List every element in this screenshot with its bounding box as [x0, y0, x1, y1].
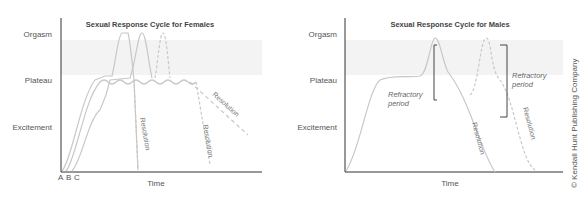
female-chart: Sexual Response Cycle for Females Orgasm…	[12, 18, 262, 188]
curve-label-b: B	[66, 173, 71, 182]
y-label-plateau: Plateau	[25, 76, 52, 85]
chart-title: Sexual Response Cycle for Females	[86, 20, 214, 29]
orgasm-band	[345, 40, 563, 75]
curve-label-a: A	[58, 173, 64, 182]
annotation-period-1: period	[387, 99, 410, 108]
y-label-orgasm: Orgasm	[309, 30, 338, 39]
annotation-resolution-2: Resolution	[522, 106, 537, 140]
x-label-time: Time	[147, 179, 165, 188]
orgasm-band	[61, 40, 262, 75]
annotation-resolution-2: Resolution	[202, 124, 215, 158]
annotation-refractory-2: Refractory	[512, 71, 548, 80]
annotation-resolution-1: Resolution	[139, 117, 152, 151]
annotation-resolution-1: Resolution	[471, 121, 486, 155]
curve-label-c: C	[74, 173, 80, 182]
x-label-time: Time	[441, 179, 459, 188]
annotation-period-2: period	[511, 80, 534, 89]
y-label-plateau: Plateau	[310, 76, 337, 85]
diagram-canvas: Sexual Response Cycle for Females Orgasm…	[0, 0, 587, 202]
y-label-orgasm: Orgasm	[24, 30, 53, 39]
annotation-resolution-3: Resolution	[211, 91, 240, 118]
y-label-excitement: Excitement	[12, 123, 52, 132]
male-chart: Sexual Response Cycle for Males Orgasm P…	[297, 18, 563, 188]
annotation-refractory-1: Refractory	[388, 90, 424, 99]
y-label-excitement: Excitement	[297, 123, 337, 132]
copyright-notice: © Kendall Hunt Publishing Company	[570, 58, 579, 188]
chart-title: Sexual Response Cycle for Males	[390, 20, 509, 29]
